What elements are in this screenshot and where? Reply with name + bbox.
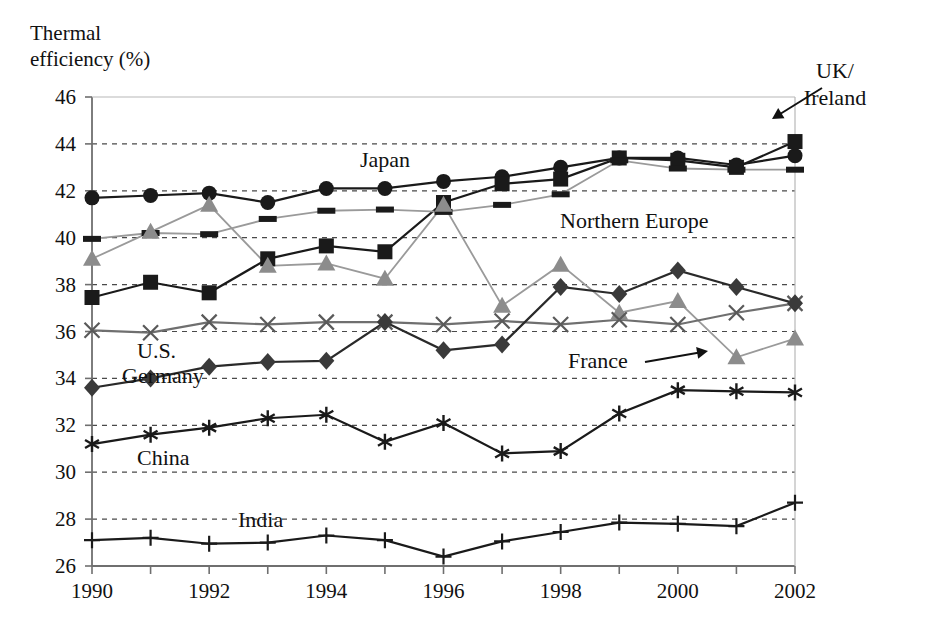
data-point-circle [377, 181, 392, 196]
data-point-dash [786, 167, 804, 173]
label-uk-ireland-2: Ireland [804, 85, 866, 110]
series-line [92, 303, 795, 332]
data-point-plus [260, 535, 276, 551]
thermal-efficiency-chart: Thermal efficiency (%) 26283032343638404… [0, 0, 928, 634]
y-tick-label: 30 [55, 460, 76, 484]
data-point-triangle [669, 292, 687, 308]
label-japan: Japan [360, 147, 410, 172]
data-point-square [377, 244, 392, 259]
data-point-dash [727, 167, 745, 173]
label-uk-ireland-1: UK/ [816, 58, 855, 83]
data-point-dash [376, 207, 394, 213]
data-point-plus [553, 524, 569, 540]
data-point-dash [200, 231, 218, 237]
data-point-triangle [200, 196, 218, 212]
label-france: France [568, 348, 628, 373]
label-northern-europe: Northern Europe [560, 208, 708, 233]
y-tick-label: 32 [55, 413, 76, 437]
data-point-dash [259, 216, 277, 222]
y-axis-title-line1: Thermal [30, 21, 101, 45]
data-point-circle [788, 148, 803, 163]
data-point-plus [201, 536, 217, 552]
data-point-circle [260, 195, 275, 210]
data-point-plus [787, 495, 803, 511]
data-point-diamond [728, 278, 744, 296]
data-point-triangle [493, 297, 511, 313]
x-axis-tick-labels: 1990199219941996199820002002 [71, 579, 816, 603]
data-point-plus [494, 533, 510, 549]
data-point-dash [493, 202, 511, 208]
data-point-asterisk [437, 415, 451, 431]
data-point-triangle [317, 254, 335, 270]
series-line [92, 503, 795, 557]
series-annotations: JapanNorthern EuropeFranceU.S.GermanyChi… [122, 58, 866, 532]
y-axis-tick-labels: 2628303234363840424446 [55, 85, 77, 578]
series-markers [83, 134, 804, 565]
x-tick-label: 1992 [188, 579, 230, 603]
y-tick-label: 26 [55, 554, 76, 578]
y-axis-title-line2: efficiency (%) [30, 47, 150, 71]
data-point-square [495, 176, 510, 191]
data-point-diamond [611, 285, 627, 303]
data-point-circle [85, 190, 100, 205]
data-point-square [202, 285, 217, 300]
data-point-dash [669, 166, 687, 172]
data-point-circle [319, 181, 334, 196]
data-point-plus [318, 528, 334, 544]
data-point-square [319, 238, 334, 253]
data-point-square [143, 275, 158, 290]
label-india: India [238, 507, 283, 532]
data-point-square [788, 134, 803, 149]
chart-canvas: Thermal efficiency (%) 26283032343638404… [0, 0, 928, 634]
label-china: China [137, 445, 190, 470]
data-point-dash [83, 236, 101, 242]
y-tick-label: 40 [55, 226, 76, 250]
y-tick-label: 34 [55, 366, 77, 390]
y-tick-label: 36 [55, 320, 76, 344]
x-tick-label: 2000 [657, 579, 699, 603]
x-tick-label: 1996 [423, 579, 465, 603]
data-point-plus [670, 516, 686, 532]
data-point-asterisk [612, 406, 626, 422]
data-point-square [553, 172, 568, 187]
label-germany: Germany [122, 363, 204, 388]
data-point-plus [143, 530, 159, 546]
y-tick-label: 42 [55, 179, 76, 203]
data-point-asterisk [378, 434, 392, 450]
y-tick-label: 44 [55, 132, 77, 156]
data-point-dash [610, 157, 628, 163]
data-point-diamond [318, 352, 334, 370]
y-tick-label: 28 [55, 507, 76, 531]
data-point-diamond [84, 379, 100, 397]
data-point-square [85, 290, 100, 305]
data-point-diamond [436, 341, 452, 359]
y-tick-label: 38 [55, 273, 76, 297]
data-point-circle [436, 174, 451, 189]
data-point-triangle [83, 250, 101, 266]
data-point-plus [436, 549, 452, 565]
data-point-plus [728, 518, 744, 534]
data-point-diamond [670, 262, 686, 280]
x-tick-label: 2002 [774, 579, 816, 603]
data-point-diamond [260, 353, 276, 371]
france-callout-head [696, 347, 708, 359]
data-point-plus [84, 532, 100, 548]
x-tick-label: 1994 [305, 579, 348, 603]
x-tick-label: 1998 [540, 579, 582, 603]
data-point-plus [377, 532, 393, 548]
data-point-plus [611, 515, 627, 531]
data-point-triangle [786, 330, 804, 346]
x-tick-label: 1990 [71, 579, 113, 603]
x-axis-ticks [92, 566, 795, 574]
data-point-dash [552, 191, 570, 197]
label-us: U.S. [137, 338, 176, 363]
data-point-dash [317, 208, 335, 214]
data-point-triangle [552, 256, 570, 272]
y-tick-label: 46 [55, 85, 76, 109]
data-point-circle [143, 188, 158, 203]
france-callout-line [645, 353, 698, 362]
